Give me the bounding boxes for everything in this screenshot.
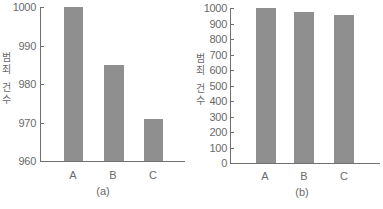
y-tick-label: 200: [191, 127, 227, 138]
y-tick-label: 970: [0, 118, 36, 129]
y-tick: [230, 101, 234, 102]
y-tick: [230, 70, 234, 71]
y-tick-label: 980: [0, 79, 36, 90]
bar-a: [256, 8, 276, 163]
y-tick: [230, 86, 234, 87]
y-tick-label: 900: [191, 19, 227, 30]
y-tick: [230, 39, 234, 40]
bar-a: [64, 7, 83, 161]
y-tick-label: 1000: [191, 3, 227, 14]
y-tick-label: 100: [191, 143, 227, 154]
y-tick: [230, 55, 234, 56]
x-category-label: C: [334, 171, 354, 182]
x-category-label: A: [255, 171, 275, 182]
y-tick-label: 500: [191, 81, 227, 92]
ylabel-char: 죄: [0, 64, 12, 76]
x-category-label: A: [63, 170, 83, 181]
y-tick-label: 400: [191, 96, 227, 107]
y-tick-label: 990: [0, 41, 36, 52]
y-tick: [230, 117, 234, 118]
y-tick-label: 300: [191, 112, 227, 123]
y-tick-label: 1000: [0, 2, 36, 13]
y-tick: [40, 7, 44, 8]
ylabel-char: 수: [0, 94, 12, 106]
x-category-label: B: [103, 170, 123, 181]
bar-c: [144, 119, 163, 161]
y-tick: [40, 123, 44, 124]
y-tick: [40, 84, 44, 85]
y-tick-label: 600: [191, 65, 227, 76]
chart-b-caption: (b): [287, 187, 317, 198]
chart-a: 범 죄 건 수 1000 990 980 970 960 A B C (a): [0, 0, 190, 209]
chart-b: 범 죄 건 수 1000 900 800 700 600 500 400 300…: [190, 0, 383, 209]
y-tick: [230, 132, 234, 133]
bar-b: [104, 65, 124, 161]
ylabel-char: 범: [0, 52, 12, 64]
x-category-label: C: [143, 170, 163, 181]
y-tick: [230, 148, 234, 149]
x-category-label: B: [294, 171, 314, 182]
y-tick: [230, 8, 234, 9]
y-tick-label: 800: [191, 34, 227, 45]
y-tick-label: 700: [191, 50, 227, 61]
y-tick: [40, 46, 44, 47]
y-tick-label: 960: [0, 156, 36, 167]
chart-a-caption: (a): [88, 186, 118, 197]
chart-a-x-axis: [40, 161, 185, 162]
chart-b-x-axis: [230, 163, 380, 164]
y-tick: [230, 24, 234, 25]
bar-c: [334, 15, 354, 163]
bar-b: [294, 12, 314, 163]
y-tick-label: 0: [191, 158, 227, 169]
